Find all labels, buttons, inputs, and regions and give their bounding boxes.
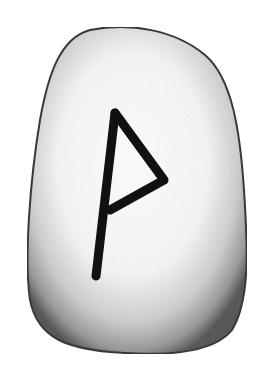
rune-stone-illustration: Wunjo ᚹ	[0, 0, 273, 373]
rune-stone-graphic	[0, 0, 273, 373]
